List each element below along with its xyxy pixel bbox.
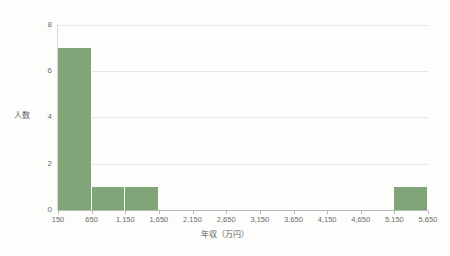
x-tick-mark-2150	[193, 211, 194, 214]
x-tick-mark-150	[58, 211, 59, 214]
x-tick-label-2150: 2,150	[183, 216, 202, 224]
x-tick-label-150: 150	[52, 216, 65, 224]
x-axis-title: 年収（万円）	[0, 231, 450, 239]
x-tick-label-3650: 3,650	[284, 216, 303, 224]
y-axis-title: 人数	[14, 112, 30, 120]
x-tick-mark-4650	[361, 211, 362, 214]
x-axis-ticks: 150 650 1,150 1,650 2,150 2,650 3,150 3,…	[0, 0, 450, 256]
x-tick-label-5650: 5,650	[419, 216, 438, 224]
x-tick-mark-650	[92, 211, 93, 214]
x-tick-mark-5150	[394, 211, 395, 214]
x-tick-label-2650: 2,650	[217, 216, 236, 224]
histogram-chart: 8 6 4 2 0 150 650 1,150 1,650 2,150 2,65…	[0, 0, 450, 256]
x-tick-label-4650: 4,650	[351, 216, 370, 224]
x-tick-label-4150: 4,150	[318, 216, 337, 224]
x-tick-mark-1650	[159, 211, 160, 214]
x-tick-mark-5650	[428, 211, 429, 214]
x-tick-mark-3150	[260, 211, 261, 214]
x-tick-mark-3650	[294, 211, 295, 214]
x-tick-mark-2650	[226, 211, 227, 214]
x-tick-mark-4150	[327, 211, 328, 214]
x-tick-label-5150: 5,150	[385, 216, 404, 224]
x-tick-label-650: 650	[85, 216, 98, 224]
x-tick-mark-1150	[125, 211, 126, 214]
x-tick-label-3150: 3,150	[250, 216, 269, 224]
x-tick-label-1150: 1,150	[116, 216, 135, 224]
x-tick-label-1650: 1,650	[150, 216, 169, 224]
